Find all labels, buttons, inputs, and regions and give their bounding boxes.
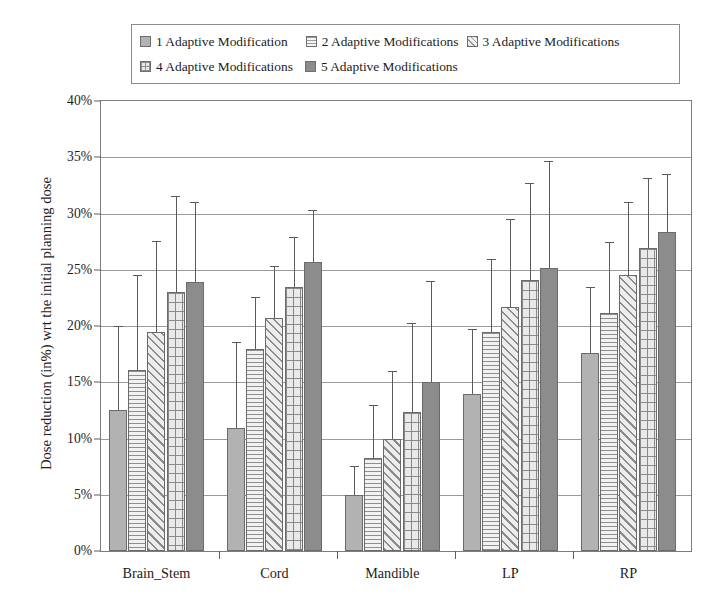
error-bar-line: [392, 371, 393, 439]
error-bar-line: [472, 329, 473, 393]
bar-cord-series-3[interactable]: [265, 318, 283, 551]
error-bar-cap: [624, 202, 633, 203]
error-bar-cap: [586, 287, 595, 288]
error-bar-line: [412, 323, 413, 412]
legend-item-4[interactable]: 4 Adaptive Modifications: [140, 60, 293, 73]
bar-lp-series-3[interactable]: [501, 307, 519, 551]
error-bar-cap: [350, 466, 359, 467]
error-bar-cap: [525, 183, 534, 184]
error-bar-line: [274, 266, 275, 318]
error-bar-cap: [426, 281, 435, 282]
legend-swatch-icon-3: [467, 36, 478, 47]
bar-mandible-series-1[interactable]: [345, 495, 363, 551]
bar-lp-series-1[interactable]: [463, 394, 481, 552]
error-bar-line: [255, 297, 256, 349]
bar-lp-series-5[interactable]: [540, 268, 558, 552]
bar-cord-series-4[interactable]: [285, 287, 303, 551]
y-tick-label: 15%: [44, 374, 92, 390]
chart-figure: 1 Adaptive Modification 2 Adaptive Modif…: [0, 0, 725, 616]
legend-label-2: 2 Adaptive Modifications: [322, 35, 459, 48]
error-bar-line: [176, 196, 177, 293]
error-bar-cap: [487, 259, 496, 260]
plot-area: 0%5%10%15%20%25%30%35%40%Brain_StemCordM…: [100, 100, 692, 552]
bar-mandible-series-2[interactable]: [364, 458, 382, 551]
gridline: [101, 214, 691, 215]
error-bar-cap: [643, 178, 652, 179]
legend-swatch-icon-4: [140, 61, 151, 72]
legend-item-1[interactable]: 1 Adaptive Modification: [140, 35, 288, 48]
legend-item-3[interactable]: 3 Adaptive Modifications: [467, 35, 620, 48]
bar-rp-series-4[interactable]: [639, 248, 657, 551]
error-bar-line: [156, 241, 157, 332]
y-tick-mark: [94, 101, 101, 102]
x-axis-group-divider: [455, 551, 456, 559]
bar-brain_stem-series-1[interactable]: [109, 410, 127, 551]
chart-legend: 1 Adaptive Modification 2 Adaptive Modif…: [131, 24, 680, 84]
error-bar-line: [236, 342, 237, 429]
bar-rp-series-2[interactable]: [600, 313, 618, 552]
x-axis-group-divider: [573, 551, 574, 559]
error-bar-cap: [605, 242, 614, 243]
legend-label-1: 1 Adaptive Modification: [156, 35, 288, 48]
y-tick-label: 10%: [44, 431, 92, 447]
bar-mandible-series-4[interactable]: [403, 412, 421, 552]
error-bar-line: [590, 287, 591, 353]
error-bar-line: [510, 219, 511, 307]
bar-rp-series-1[interactable]: [581, 353, 599, 551]
error-bar-line: [313, 210, 314, 262]
bar-brain_stem-series-3[interactable]: [147, 332, 165, 551]
legend-swatch-icon-2: [306, 36, 317, 47]
error-bar-line: [609, 242, 610, 313]
legend-swatch-icon-5: [305, 61, 316, 72]
legend-label-4: 4 Adaptive Modifications: [156, 60, 293, 73]
error-bar-cap: [506, 219, 515, 220]
legend-label-5: 5 Adaptive Modifications: [321, 60, 458, 73]
error-bar-cap: [114, 326, 123, 327]
y-tick-mark: [94, 494, 101, 495]
bar-lp-series-2[interactable]: [482, 332, 500, 551]
legend-item-2[interactable]: 2 Adaptive Modifications: [306, 35, 459, 48]
error-bar-cap: [171, 196, 180, 197]
bar-brain_stem-series-4[interactable]: [167, 292, 185, 551]
bar-cord-series-1[interactable]: [227, 428, 245, 551]
error-bar-line: [491, 259, 492, 332]
error-bar-line: [195, 202, 196, 282]
error-bar-cap: [662, 174, 671, 175]
y-tick-label: 25%: [44, 262, 92, 278]
error-bar-line: [530, 183, 531, 280]
error-bar-cap: [388, 371, 397, 372]
bar-rp-series-5[interactable]: [658, 232, 676, 552]
bar-mandible-series-3[interactable]: [383, 439, 401, 552]
error-bar-cap: [308, 210, 317, 211]
bar-brain_stem-series-5[interactable]: [186, 282, 204, 551]
gridline: [101, 157, 691, 158]
x-axis-group-divider: [219, 551, 220, 559]
bar-rp-series-3[interactable]: [619, 275, 637, 551]
bar-lp-series-4[interactable]: [521, 280, 539, 551]
legend-label-3: 3 Adaptive Modifications: [483, 35, 620, 48]
y-tick-label: 40%: [44, 93, 92, 109]
y-tick-label: 35%: [44, 149, 92, 165]
bar-cord-series-5[interactable]: [304, 262, 322, 551]
bar-cord-series-2[interactable]: [246, 349, 264, 552]
error-bar-cap: [289, 237, 298, 238]
bar-mandible-series-5[interactable]: [422, 382, 440, 551]
error-bar-line: [648, 178, 649, 249]
error-bar-cap: [190, 202, 199, 203]
y-tick-mark: [94, 438, 101, 439]
y-tick-mark: [94, 382, 101, 383]
error-bar-line: [549, 161, 550, 268]
x-tick-label-lp: LP: [502, 565, 519, 582]
y-tick-mark: [94, 269, 101, 270]
error-bar-cap: [369, 405, 378, 406]
error-bar-cap: [407, 323, 416, 324]
error-bar-cap: [544, 161, 553, 162]
error-bar-cap: [468, 329, 477, 330]
bar-brain_stem-series-2[interactable]: [128, 370, 146, 551]
error-bar-cap: [251, 297, 260, 298]
error-bar-line: [294, 237, 295, 287]
y-tick-mark: [94, 157, 101, 158]
error-bar-line: [137, 275, 138, 370]
legend-swatch-icon-1: [140, 36, 151, 47]
legend-item-5[interactable]: 5 Adaptive Modifications: [305, 60, 458, 73]
